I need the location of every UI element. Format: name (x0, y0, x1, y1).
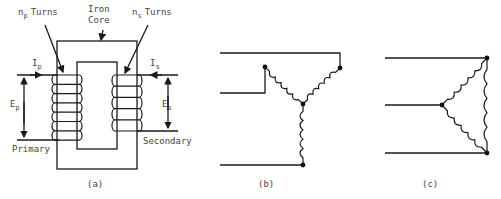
iron-core-label-2: Core (88, 15, 110, 25)
es-label: Es (162, 99, 172, 112)
panel-b-wye: (b) (220, 53, 342, 189)
iron-core-label-1: Iron (88, 4, 110, 14)
transformer-figure: npTurns nsTurns Iron Core Ip Is Ep Es Pr… (0, 0, 501, 199)
caption-a: (a) (87, 179, 103, 189)
np-turns-label: npTurns (18, 7, 58, 20)
delta-windings (442, 58, 487, 153)
delta-winding-b (442, 105, 487, 153)
wye-winding-b (303, 68, 340, 104)
panel-a-transformer: npTurns nsTurns Iron Core Ip Is Ep Es Pr… (10, 4, 192, 189)
caption-c: (c) (422, 179, 438, 189)
delta-node-bottom (485, 151, 490, 156)
secondary-label: Secondary (143, 136, 192, 146)
ep-label: Ep (10, 99, 20, 112)
iron-core-window (77, 62, 117, 149)
wye-winding-a (265, 67, 303, 104)
ip-label: Ip (32, 58, 42, 71)
ns-turns-label: nsTurns (132, 7, 172, 20)
wye-node-left (263, 65, 268, 70)
core-pointer (101, 30, 103, 40)
delta-node-top (485, 56, 490, 61)
delta-node-left (440, 103, 445, 108)
is-label: Is (150, 58, 160, 71)
wye-top-lead (220, 53, 340, 68)
np-pointer (45, 25, 63, 72)
wye-middle-lead (220, 67, 265, 93)
wye-node-right (338, 66, 343, 71)
panel-c-delta: (c) (385, 56, 489, 189)
wye-windings (265, 67, 340, 165)
wye-node-bottom (301, 163, 306, 168)
iron-core-outer (57, 41, 137, 169)
delta-winding-c (484, 58, 487, 153)
primary-label: Primary (12, 144, 51, 154)
caption-b: (b) (258, 179, 274, 189)
wye-neutral-node (301, 102, 306, 107)
delta-winding-a (442, 58, 487, 105)
wye-winding-c (300, 104, 303, 165)
